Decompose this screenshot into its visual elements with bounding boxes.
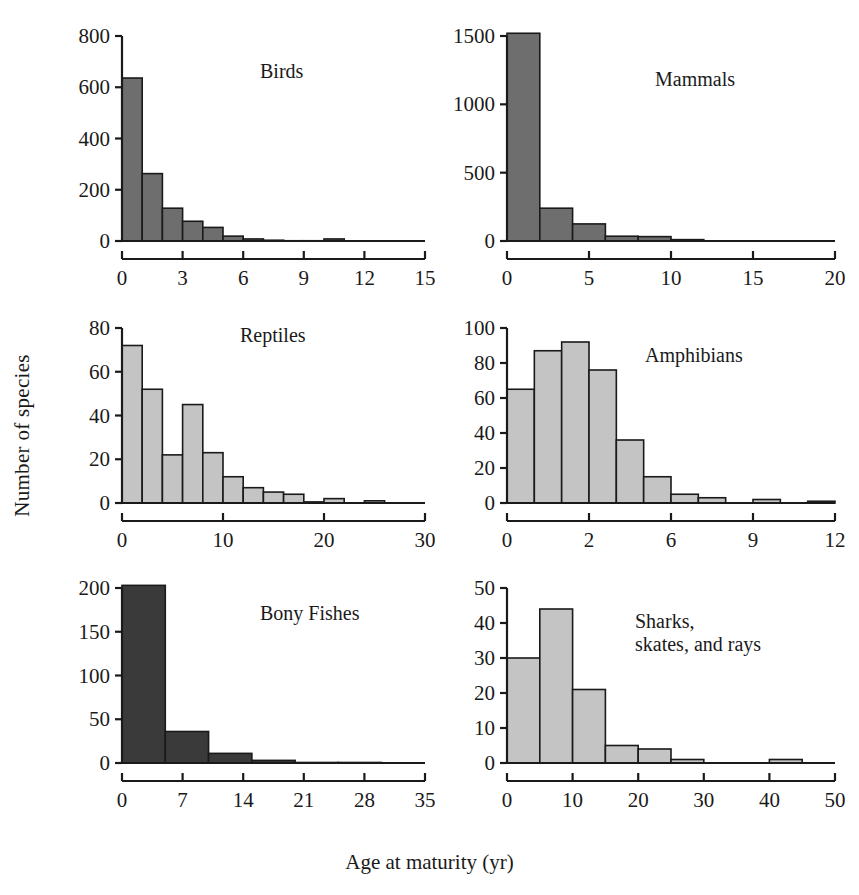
chart-panel-mammals: Mammals05001000150005101520 — [445, 20, 845, 295]
x-axis-label: Age at maturity (yr) — [0, 850, 859, 875]
x-tick-label: 7 — [177, 788, 188, 812]
x-tick-label: 30 — [693, 788, 714, 812]
chart-svg-mammals: 05001000150005101520 — [445, 20, 845, 295]
y-axis-label-text: Number of species — [10, 354, 35, 517]
panel-title-bonyfishes: Bony Fishes — [260, 602, 359, 625]
histogram-bar — [589, 370, 616, 503]
x-tick-label: 0 — [117, 528, 128, 552]
y-tick-label: 40 — [89, 404, 110, 428]
x-tick-label: 2 — [584, 528, 595, 552]
y-tick-label: 80 — [474, 351, 495, 375]
y-tick-label: 20 — [89, 447, 110, 471]
x-tick-label: 21 — [293, 788, 314, 812]
y-tick-label: 60 — [474, 386, 495, 410]
histogram-bar — [122, 585, 165, 763]
panel-title-reptiles: Reptiles — [240, 324, 306, 347]
x-tick-label: 10 — [562, 788, 583, 812]
histogram-bar — [223, 477, 243, 503]
y-tick-label: 50 — [474, 576, 495, 600]
y-tick-label: 0 — [100, 229, 111, 253]
y-tick-label: 40 — [474, 611, 495, 635]
x-tick-label: 35 — [415, 788, 436, 812]
histogram-bar — [209, 753, 252, 763]
y-tick-label: 0 — [485, 229, 496, 253]
histogram-bar — [122, 78, 142, 241]
y-tick-label: 30 — [474, 646, 495, 670]
chart-panel-amphibians: Amphibians020406080100026912 — [445, 312, 845, 557]
x-tick-label: 28 — [354, 788, 375, 812]
y-tick-label: 40 — [474, 421, 495, 445]
x-tick-label: 5 — [584, 266, 595, 290]
y-tick-label: 20 — [474, 456, 495, 480]
x-tick-label: 6 — [238, 266, 249, 290]
histogram-bar — [142, 174, 162, 241]
chart-svg-birds: 020040060080003691215 — [60, 20, 435, 295]
panel-title-birds: Birds — [260, 60, 303, 83]
histogram-bar — [540, 208, 573, 241]
histogram-bar — [540, 609, 573, 763]
y-tick-label: 10 — [474, 716, 495, 740]
y-tick-label: 200 — [79, 576, 111, 600]
chart-svg-reptiles: 0204060800102030 — [60, 312, 435, 557]
x-tick-label: 10 — [213, 528, 234, 552]
bars-reptiles — [122, 346, 385, 504]
histogram-bar — [671, 494, 698, 503]
x-tick-label: 3 — [177, 266, 188, 290]
x-tick-label: 20 — [825, 266, 846, 290]
y-tick-label: 100 — [79, 664, 111, 688]
y-tick-label: 600 — [79, 75, 111, 99]
chart-panel-bonyfishes: Bony Fishes0501001502000714212835 — [60, 572, 435, 817]
histogram-bar — [616, 440, 643, 503]
x-tick-label: 20 — [314, 528, 335, 552]
x-tick-label: 0 — [502, 788, 513, 812]
x-tick-label: 30 — [415, 528, 436, 552]
histogram-bar — [162, 208, 182, 241]
x-tick-label: 9 — [748, 528, 759, 552]
y-tick-label: 100 — [464, 316, 496, 340]
x-tick-label: 10 — [661, 266, 682, 290]
x-tick-label: 20 — [628, 788, 649, 812]
y-tick-label: 0 — [485, 751, 496, 775]
histogram-bar — [284, 494, 304, 503]
histogram-bar — [534, 351, 561, 503]
chart-panel-birds: Birds020040060080003691215 — [60, 20, 435, 295]
y-tick-label: 0 — [100, 491, 111, 515]
histogram-bar — [263, 492, 283, 503]
y-tick-label: 800 — [79, 24, 111, 48]
histogram-bar — [243, 488, 263, 503]
histogram-bar — [507, 658, 540, 763]
y-tick-label: 500 — [464, 161, 496, 185]
histogram-bar — [605, 746, 638, 764]
chart-panel-sharks: Sharks, skates, and rays0102030405001020… — [445, 572, 845, 817]
histogram-bar — [203, 227, 223, 241]
y-tick-label: 1500 — [453, 24, 495, 48]
histogram-bar — [183, 405, 203, 503]
y-tick-label: 20 — [474, 681, 495, 705]
figure-histogram-grid: Number of species Age at maturity (yr) B… — [0, 0, 859, 895]
x-axis-label-text: Age at maturity (yr) — [345, 850, 514, 874]
bars-mammals — [507, 33, 704, 241]
bars-birds — [122, 78, 344, 241]
panel-title-sharks: Sharks, skates, and rays — [635, 610, 761, 656]
y-axis-label: Number of species — [2, 300, 42, 570]
x-tick-label: 40 — [759, 788, 780, 812]
y-tick-label: 0 — [485, 491, 496, 515]
x-tick-label: 0 — [117, 266, 128, 290]
histogram-bar — [203, 453, 223, 503]
x-tick-label: 15 — [415, 266, 436, 290]
histogram-bar — [573, 224, 606, 241]
y-tick-label: 0 — [100, 751, 111, 775]
y-tick-label: 150 — [79, 620, 111, 644]
histogram-bar — [122, 346, 142, 504]
histogram-bar — [162, 455, 182, 503]
x-tick-label: 9 — [299, 266, 310, 290]
y-tick-label: 400 — [79, 127, 111, 151]
y-tick-label: 50 — [89, 707, 110, 731]
histogram-bar — [165, 732, 208, 764]
histogram-bar — [644, 477, 671, 503]
panel-title-amphibians: Amphibians — [645, 344, 743, 367]
y-tick-label: 1000 — [453, 92, 495, 116]
y-tick-label: 200 — [79, 178, 111, 202]
histogram-bar — [562, 342, 589, 503]
x-tick-label: 0 — [117, 788, 128, 812]
